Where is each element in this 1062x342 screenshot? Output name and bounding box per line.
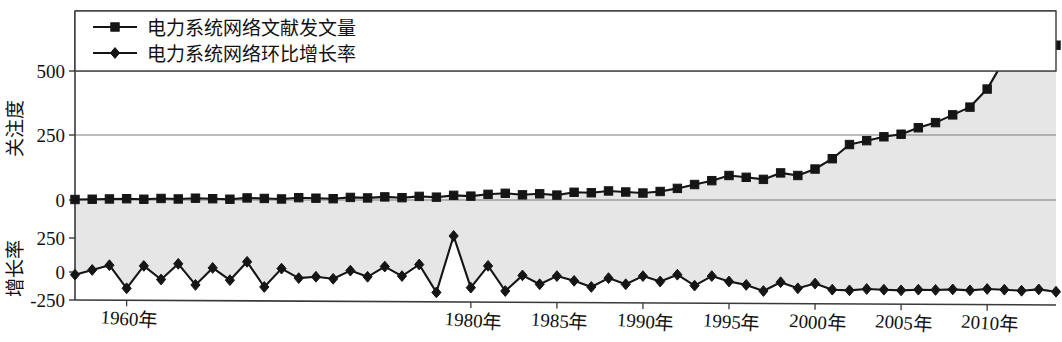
series-marker-publications	[931, 118, 939, 126]
series-marker-publications	[381, 193, 389, 201]
series-marker-publications	[501, 189, 509, 197]
series-marker-publications	[708, 176, 716, 184]
series-marker-publications	[88, 195, 96, 203]
xtick-label-1960: 1960年	[100, 306, 158, 331]
series-marker-publications	[966, 103, 974, 111]
series-marker-publications	[105, 195, 113, 203]
series-marker-publications	[862, 136, 870, 144]
legend-label-1: 电力系统网络环比增长率	[147, 44, 356, 65]
series-marker-publications	[346, 193, 354, 201]
y-axis-title-top: 关注度	[5, 100, 26, 157]
series-marker-publications	[983, 85, 991, 93]
series-marker-publications	[535, 190, 543, 198]
series-marker-publications	[122, 195, 130, 203]
series-marker-publications	[260, 194, 268, 202]
series-marker-publications	[208, 195, 216, 203]
ytick-label-bottom-250: 250	[37, 228, 66, 249]
xtick-label-2010: 2010年	[960, 311, 1018, 336]
legend-marker-square	[111, 23, 119, 31]
xtick-label-1985: 1985年	[530, 309, 588, 334]
series-marker-publications	[794, 171, 802, 179]
series-marker-publications	[329, 195, 337, 203]
series-fill-area	[75, 44, 1056, 293]
series-marker-publications	[398, 193, 406, 201]
series-marker-publications	[312, 194, 320, 202]
series-marker-publications	[243, 194, 251, 202]
series-marker-publications	[776, 169, 784, 177]
series-marker-publications	[759, 175, 767, 183]
series-marker-publications	[570, 188, 578, 196]
series-marker-publications	[484, 190, 492, 198]
series-marker-publications	[363, 194, 371, 202]
chart-canvas: 50025002500-250关注度增长率1960年1980年1985年1990…	[0, 0, 1062, 342]
series-marker-publications	[553, 191, 561, 199]
xtick-label-2000: 2000年	[788, 310, 846, 335]
series-marker-publications	[742, 173, 750, 181]
xtick-label-1995: 1995年	[702, 309, 760, 334]
series-marker-publications	[656, 187, 664, 195]
xtick-label-1980: 1980年	[444, 308, 502, 333]
series-marker-publications	[673, 184, 681, 192]
series-marker-publications	[725, 171, 733, 179]
series-marker-publications	[518, 191, 526, 199]
series-marker-publications	[690, 180, 698, 188]
series-marker-publications	[897, 130, 905, 138]
ytick-label-top-250: 250	[37, 125, 66, 146]
series-marker-publications	[914, 124, 922, 132]
series-marker-publications	[174, 195, 182, 203]
xtick-label-2005: 2005年	[874, 310, 932, 335]
xtick-label-1990: 1990年	[616, 309, 674, 334]
series-marker-publications	[277, 195, 285, 203]
chart-figure: 50025002500-250关注度增长率1960年1980年1985年1990…	[0, 0, 1062, 342]
series-marker-publications	[415, 192, 423, 200]
legend-label-0: 电力系统网络文献发文量	[147, 18, 356, 39]
x-axis-line	[75, 300, 1056, 305]
series-marker-publications	[587, 189, 595, 197]
series-marker-publications	[432, 193, 440, 201]
series-marker-publications	[467, 192, 475, 200]
series-marker-publications	[880, 133, 888, 141]
y-axis-title-bottom: 增长率	[5, 240, 26, 297]
series-marker-publications	[157, 194, 165, 202]
series-marker-publications	[639, 189, 647, 197]
series-marker-publications	[71, 195, 79, 203]
series-marker-publications	[604, 187, 612, 195]
series-marker-publications	[191, 194, 199, 202]
ytick-label-top-0: 0	[56, 190, 66, 211]
series-marker-publications	[622, 188, 630, 196]
series-marker-publications	[295, 193, 303, 201]
ytick-label-bottom--250: -250	[30, 290, 65, 311]
series-marker-publications	[949, 111, 957, 119]
series-marker-publications	[226, 195, 234, 203]
series-marker-publications	[811, 165, 819, 173]
ytick-label-top-500: 500	[37, 61, 66, 82]
series-marker-publications	[449, 191, 457, 199]
ytick-label-bottom-0: 0	[56, 262, 66, 283]
series-marker-publications	[140, 195, 148, 203]
series-marker-publications	[845, 140, 853, 148]
series-marker-publications	[828, 155, 836, 163]
